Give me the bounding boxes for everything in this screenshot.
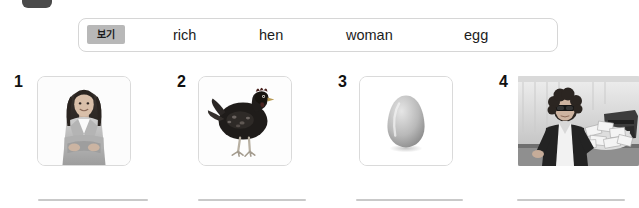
word-bank-option-woman[interactable]: woman bbox=[346, 25, 393, 45]
item-image-card-2 bbox=[198, 76, 292, 166]
word-bank-option-rich[interactable]: rich bbox=[173, 25, 196, 45]
hen-photo-icon bbox=[199, 77, 291, 165]
item-image-card-4 bbox=[518, 76, 639, 166]
word-bank-option-hen[interactable]: hen bbox=[259, 25, 283, 45]
tab-fragment-icon bbox=[22, 0, 52, 8]
answer-line-1[interactable] bbox=[38, 199, 148, 201]
item-image-card-3 bbox=[359, 76, 453, 166]
answer-line-4[interactable] bbox=[517, 199, 625, 201]
word-bank-option-egg[interactable]: egg bbox=[464, 25, 488, 45]
woman-photo-icon bbox=[38, 77, 130, 165]
worksheet-page: 보기 rich hen woman egg 1 2 3 4 bbox=[0, 0, 639, 208]
item-number-3: 3 bbox=[338, 73, 347, 91]
item-number-2: 2 bbox=[177, 73, 186, 91]
item-image-card-1 bbox=[37, 76, 131, 166]
answer-line-2[interactable] bbox=[198, 199, 306, 201]
rich-photo-icon bbox=[518, 76, 639, 166]
egg-photo-icon bbox=[360, 77, 452, 165]
word-bank-label: 보기 bbox=[87, 25, 125, 44]
item-number-4: 4 bbox=[499, 73, 508, 91]
word-bank: 보기 rich hen woman egg bbox=[78, 18, 558, 52]
answer-line-3[interactable] bbox=[356, 199, 463, 201]
item-number-1: 1 bbox=[14, 73, 23, 91]
